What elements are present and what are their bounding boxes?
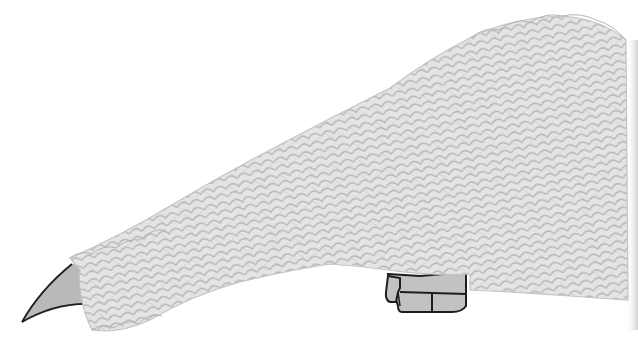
feathered-body <box>70 15 628 331</box>
creature-illustration <box>0 0 638 348</box>
illustration-canvas <box>0 0 638 348</box>
foot <box>386 272 466 312</box>
